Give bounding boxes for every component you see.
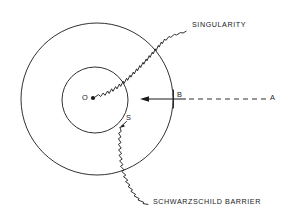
- figure-root: SINGULARITY SCHWARZSCHILD BARRIER O S B …: [0, 0, 289, 212]
- singularity-label: SINGULARITY: [192, 20, 246, 29]
- schwarzschild-barrier-label: SCHWARZSCHILD BARRIER: [153, 197, 261, 206]
- surface-label: S: [126, 113, 131, 122]
- infalling-ray-arrowhead: [140, 96, 149, 102]
- black-hole-diagram: SINGULARITY SCHWARZSCHILD BARRIER O S B …: [0, 0, 289, 212]
- surface-pointer-arrowhead: [119, 124, 125, 128]
- singularity-wavy-line: [95, 31, 186, 97]
- origin-label: O: [82, 93, 88, 102]
- origin-dot: [91, 96, 95, 100]
- point-a-label: A: [270, 93, 275, 102]
- inner-surface-circle: [62, 67, 128, 133]
- point-b-label: B: [177, 90, 182, 99]
